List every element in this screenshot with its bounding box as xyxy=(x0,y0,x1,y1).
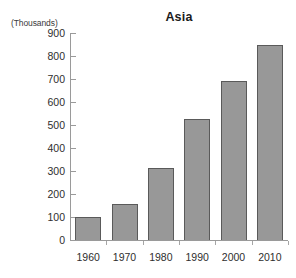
y-tick-mark xyxy=(71,171,76,172)
x-tick-mark xyxy=(143,241,144,245)
y-tick-mark xyxy=(71,125,76,126)
y-tick-mark xyxy=(71,194,76,195)
y-tick-mark xyxy=(71,33,76,34)
y-tick-label: 700 xyxy=(25,79,65,80)
x-category-label: 2010 xyxy=(248,251,292,263)
y-tick-mark xyxy=(71,102,76,103)
bar-chart-figure: (Thousands) Asia 01002003004005006007008… xyxy=(0,0,296,278)
bar xyxy=(75,217,101,240)
y-tick-label: 300 xyxy=(25,171,65,172)
x-tick-mark xyxy=(179,241,180,245)
bar xyxy=(112,204,138,240)
y-tick-mark xyxy=(71,148,76,149)
chart-title: Asia xyxy=(70,10,288,24)
bar xyxy=(221,81,247,240)
x-tick-mark xyxy=(252,241,253,245)
y-tick-label: 200 xyxy=(25,194,65,195)
y-tick-label: 500 xyxy=(25,125,65,126)
y-tick-label: 400 xyxy=(25,148,65,149)
x-tick-mark xyxy=(106,241,107,245)
y-tick-mark xyxy=(71,240,76,241)
plot-area: 0100200300400500600700800900 19601970198… xyxy=(70,33,288,240)
x-tick-mark xyxy=(288,241,289,245)
bar xyxy=(148,168,174,240)
y-tick-mark xyxy=(71,79,76,80)
x-tick-mark xyxy=(215,241,216,245)
y-tick-label: 600 xyxy=(25,102,65,103)
bar xyxy=(257,45,283,240)
y-tick-mark xyxy=(71,56,76,57)
y-tick-label: 800 xyxy=(25,56,65,57)
bar xyxy=(184,119,210,240)
y-tick-label: 0 xyxy=(25,240,65,241)
y-tick-label: 100 xyxy=(25,217,65,218)
y-axis-line xyxy=(70,33,71,240)
y-tick-label: 900 xyxy=(25,33,65,34)
